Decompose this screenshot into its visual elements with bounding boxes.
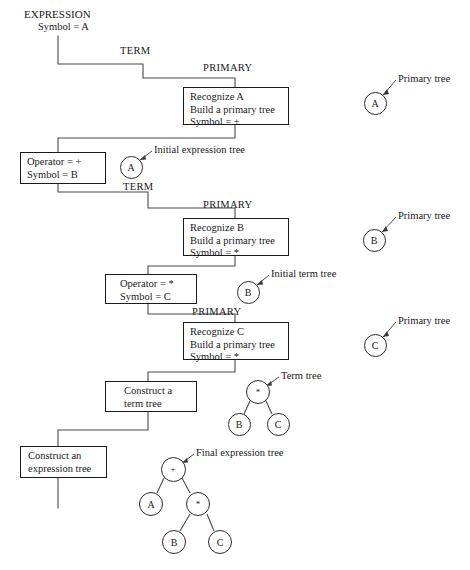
box-line: Construct a <box>124 385 190 398</box>
box-line: Build a primary tree <box>190 104 282 117</box>
process-box-construct-term-tree: Construct a term tree <box>105 381 197 412</box>
box-line: Operator = + <box>27 156 99 169</box>
callout-primary-tree-a: Primary tree <box>398 73 450 84</box>
connector-lines <box>0 0 470 570</box>
box-line: Symbol = B <box>27 169 99 182</box>
nonterminal-term-1: TERM <box>120 45 150 56</box>
tree-node-final-tree-c: C <box>208 530 232 554</box>
process-box-recognize-a: Recognize A Build a primary tree Symbol … <box>183 87 289 125</box>
nonterminal-primary-3: PRIMARY <box>192 306 241 317</box>
tree-node-final-tree-root: + <box>161 457 186 482</box>
nonterminal-primary-1: PRIMARY <box>203 62 252 73</box>
box-line: Construct an <box>28 450 100 463</box>
box-line: Build a primary tree <box>190 235 282 248</box>
tree-node-final-tree-a: A <box>139 492 163 516</box>
box-line: Recognize C <box>190 326 282 339</box>
tree-node-term-tree-right: C <box>267 413 290 436</box>
process-box-recognize-c: Recognize C Build a primary tree Symbol … <box>183 322 289 360</box>
tree-node-primary-tree-b: B <box>363 229 386 252</box>
tree-node-term-tree-left: B <box>228 413 251 436</box>
box-line: term tree <box>124 398 190 411</box>
callout-initial-term-tree: Initial term tree <box>271 268 336 279</box>
callout-term-tree: Term tree <box>281 370 321 381</box>
expression-heading: EXPRESSION <box>24 8 91 20</box>
process-box-operator-star: Operator = * Symbol = C <box>105 274 197 304</box>
callout-primary-tree-b: Primary tree <box>398 210 450 221</box>
callout-initial-expression-tree: Initial expression tree <box>154 144 245 155</box>
process-box-operator-plus: Operator = + Symbol = B <box>20 152 106 184</box>
tree-node-final-tree-star: * <box>186 492 210 516</box>
callout-primary-tree-c: Primary tree <box>398 315 450 326</box>
tree-node-initial-term-tree-b: B <box>237 281 260 304</box>
expression-subline: Symbol = A <box>38 21 89 33</box>
tree-node-primary-tree-c: C <box>364 334 387 357</box>
box-line: Recognize A <box>190 91 282 104</box>
box-line: expression tree <box>28 463 100 476</box>
nonterminal-term-2: TERM <box>123 181 153 192</box>
box-line: Operator = * <box>120 278 190 291</box>
box-line: Build a primary tree <box>190 339 282 352</box>
tree-node-primary-tree-a: A <box>364 92 387 115</box>
tree-node-final-tree-b: B <box>162 530 186 554</box>
nonterminal-primary-2: PRIMARY <box>203 199 252 210</box>
flowchart-diagram: EXPRESSION Symbol = A TERM PRIMARY TERM … <box>0 0 470 570</box>
tree-node-initial-expression-tree-a: A <box>120 156 143 179</box>
box-line: Symbol = * <box>190 247 282 260</box>
box-line: Symbol = C <box>120 291 190 304</box>
tree-node-term-tree-root: * <box>246 380 270 404</box>
box-line: Symbol = + <box>190 116 282 129</box>
box-line: Recognize B <box>190 222 282 235</box>
process-box-construct-expression-tree: Construct an expression tree <box>20 446 107 478</box>
process-box-recognize-b: Recognize B Build a primary tree Symbol … <box>183 218 289 256</box>
box-line: Symbol = * <box>190 351 282 364</box>
callout-final-expression-tree: Final expression tree <box>196 447 283 458</box>
